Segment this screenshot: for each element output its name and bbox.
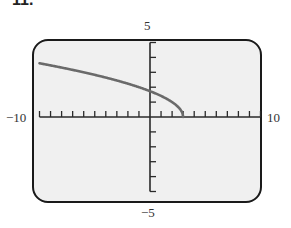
x-min-label: −10 bbox=[6, 110, 26, 126]
axes bbox=[40, 43, 261, 192]
function-curve bbox=[40, 63, 184, 117]
y-max-label: 5 bbox=[144, 18, 151, 34]
x-max-label: 10 bbox=[267, 110, 280, 126]
y-min-label: −5 bbox=[141, 205, 155, 221]
graph-plot bbox=[0, 0, 291, 228]
